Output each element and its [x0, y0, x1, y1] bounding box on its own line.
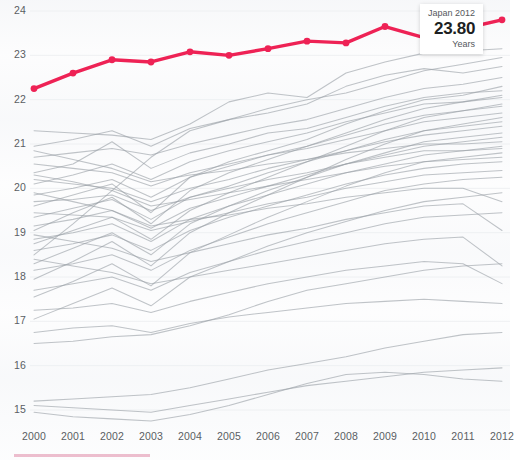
tooltip-value: 23.80: [428, 19, 475, 39]
y-axis-tick-label: 19: [2, 226, 26, 238]
x-axis-tick-label: 2009: [365, 430, 405, 442]
background-series-line: [34, 193, 502, 319]
background-series-line: [34, 95, 502, 230]
x-axis-tick-label: 2005: [209, 430, 249, 442]
background-series-line: [34, 264, 502, 344]
background-series-line: [34, 133, 502, 264]
japan-data-point[interactable]: [109, 56, 116, 63]
x-axis-tick-label: 2012: [482, 430, 518, 442]
x-axis-tick-label: 2001: [53, 430, 93, 442]
x-axis-tick-label: 2007: [287, 430, 327, 442]
japan-data-point[interactable]: [343, 40, 350, 47]
y-axis-tick-label: 18: [2, 270, 26, 282]
y-axis-tick-label: 23: [2, 48, 26, 60]
x-axis-tick-label: 2008: [326, 430, 366, 442]
y-axis-tick-label: 16: [2, 359, 26, 371]
x-axis-tick-label: 2000: [14, 430, 54, 442]
x-axis-tick-label: 2002: [92, 430, 132, 442]
x-axis-tick-label: 2004: [170, 430, 210, 442]
japan-data-point[interactable]: [382, 23, 389, 30]
background-series-line: [34, 213, 502, 291]
japan-data-point[interactable]: [187, 48, 194, 55]
tooltip-title: Japan 2012: [428, 8, 475, 18]
background-series-line: [34, 122, 502, 220]
x-axis-tick-label: 2011: [443, 430, 483, 442]
background-series-line: [34, 332, 502, 401]
tooltip-japan-2012: Japan 2012 23.80 Years: [420, 4, 483, 54]
y-axis-tick-label: 15: [2, 403, 26, 415]
japan-data-point[interactable]: [265, 45, 272, 52]
japan-data-point[interactable]: [499, 16, 506, 23]
tooltip-unit: Years: [428, 39, 475, 49]
y-axis-tick-label: 22: [2, 93, 26, 105]
japan-data-point[interactable]: [70, 70, 77, 77]
x-axis-tick-label: 2006: [248, 430, 288, 442]
bottom-accent-bar: [14, 454, 150, 457]
background-series-line: [34, 368, 502, 412]
background-series-line: [34, 106, 502, 197]
japan-data-point[interactable]: [31, 85, 38, 92]
background-series-line: [34, 177, 502, 270]
y-axis-tick-label: 17: [2, 314, 26, 326]
japan-data-point[interactable]: [226, 52, 233, 59]
background-series-line: [34, 188, 502, 226]
y-axis-tick-label: 24: [2, 4, 26, 16]
japan-data-point[interactable]: [304, 38, 311, 45]
y-axis-tick-label: 20: [2, 181, 26, 193]
y-axis-tick-label: 21: [2, 137, 26, 149]
x-axis-tick-label: 2003: [131, 430, 171, 442]
japan-data-point[interactable]: [148, 59, 155, 66]
x-axis-tick-label: 2010: [404, 430, 444, 442]
background-series-line: [34, 104, 502, 244]
